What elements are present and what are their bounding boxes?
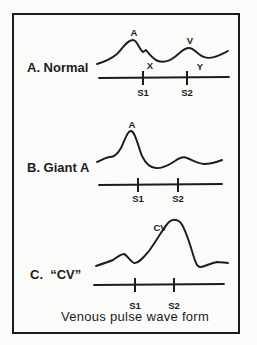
- wave-annotation-normal-y: Y: [197, 61, 204, 72]
- baseline-normal: [99, 77, 229, 78]
- panel-label-giant-a: B. Giant A: [27, 161, 89, 174]
- wave-annotation-normal-x: X: [147, 60, 154, 71]
- wave-annotation-giant-a-a: A: [129, 119, 136, 130]
- tick-label-giant-a-s2: S2: [172, 193, 184, 204]
- wave-trace-giant-a: [97, 131, 222, 168]
- tick-label-normal-s2: S2: [181, 87, 193, 98]
- panel-label-cv: C. “CV”: [30, 268, 81, 281]
- baseline-giant-a: [99, 184, 222, 185]
- wave-annotation-normal-v: V: [187, 35, 194, 46]
- tick-label-giant-a-s1: S1: [132, 193, 144, 204]
- wave-annotation-cv-cv: CV: [153, 222, 167, 233]
- diagram-caption: Venous pulse wave form: [30, 310, 240, 324]
- panel-label-normal: A. Normal: [27, 61, 88, 74]
- baseline-cv: [94, 284, 224, 285]
- venous-pulse-diagram: S1S2AXVYS1S2AS1S2CV A. Normal B. Giant A…: [0, 0, 257, 345]
- wave-trace-normal: [97, 40, 228, 64]
- tick-label-normal-s1: S1: [137, 87, 149, 98]
- wave-annotation-normal-a: A: [131, 27, 138, 38]
